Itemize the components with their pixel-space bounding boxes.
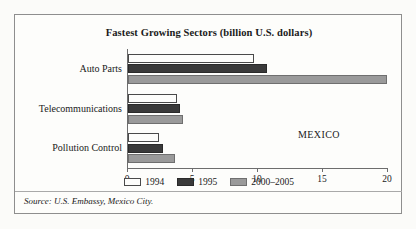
x-axis-tick <box>127 168 128 172</box>
legend-item: 2000–2005 <box>230 177 294 187</box>
source-divider <box>15 191 402 192</box>
category-label: Auto Parts <box>80 63 123 74</box>
legend-item: 1994 <box>124 177 164 187</box>
bar <box>128 104 180 113</box>
legend-label: 1995 <box>198 177 217 187</box>
x-axis-tick <box>257 168 258 172</box>
source-note: Source: U.S. Embassy, Mexico City. <box>24 196 153 206</box>
bar-group <box>128 133 388 163</box>
bar <box>128 115 183 124</box>
chart-legend: 199419952000–2005 <box>15 177 403 187</box>
bar-group <box>128 94 388 124</box>
bar <box>128 94 177 103</box>
bar <box>128 144 163 153</box>
x-axis-tick <box>192 168 193 172</box>
x-axis-tick <box>387 168 388 172</box>
bar <box>128 54 254 63</box>
chart-title: Fastest Growing Sectors (billion U.S. do… <box>15 27 403 38</box>
legend-swatch <box>230 178 247 186</box>
bar <box>128 75 387 84</box>
mexico-annotation: MEXICO <box>298 129 340 140</box>
legend-label: 1994 <box>145 177 164 187</box>
category-label: Telecommunications <box>39 103 122 114</box>
category-label: Pollution Control <box>52 142 122 153</box>
category-axis-labels: Auto PartsTelecommunicationsPollution Co… <box>15 49 122 168</box>
x-axis-tick <box>322 168 323 172</box>
figure-frame: Fastest Growing Sectors (billion U.S. do… <box>14 14 402 214</box>
bar <box>128 154 175 163</box>
bar-group <box>128 54 388 84</box>
plot-area: 05101520 <box>127 49 387 168</box>
legend-item: 1995 <box>177 177 217 187</box>
legend-swatch <box>124 178 141 186</box>
bar <box>128 133 159 142</box>
legend-label: 2000–2005 <box>251 177 294 187</box>
bar <box>128 64 267 73</box>
legend-swatch <box>177 178 194 186</box>
chart-figure: Fastest Growing Sectors (billion U.S. do… <box>0 0 416 229</box>
